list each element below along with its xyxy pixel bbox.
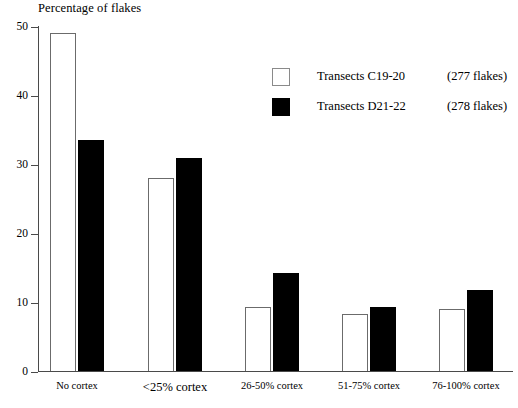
y-axis-tick [31,96,38,97]
x-axis-label-1: <25% cortex [143,380,207,395]
y-axis-tick-label: 40 [0,90,28,102]
y-axis-line [38,26,39,372]
y-axis-tick [31,372,38,373]
y-axis-tick-label: 50 [0,21,28,33]
y-axis-tick-label: 20 [0,228,28,240]
bar-filled-1 [176,158,202,372]
bar-open-2 [245,307,271,372]
legend-label: Transects C19-20 [317,69,405,84]
plot-area: 50403020100 No cortex<25% cortex26-50% c… [0,0,518,408]
y-axis-tick [31,165,38,166]
y-axis-tick-label: 30 [0,159,28,171]
bar-filled-0 [78,140,104,371]
bar-filled-3 [370,307,396,371]
legend-count: (277 flakes) [447,69,507,84]
bar-filled-4 [467,290,493,371]
y-axis-tick-label: 0 [0,366,28,378]
legend-label: Transects D21-22 [317,99,406,114]
y-axis-tick [31,234,38,235]
bar-open-4 [439,309,465,371]
bar-chart-figure: Percentage of flakes 50403020100 No cort… [0,0,518,408]
bar-open-0 [50,33,76,371]
bar-open-3 [342,314,368,372]
legend-count: (278 flakes) [447,99,507,114]
y-axis-tick-label: 10 [0,297,28,309]
x-axis-label-4: 76-100% cortex [432,380,499,391]
x-axis-label-3: 51-75% cortex [338,380,400,391]
legend-swatch-filled [272,98,290,116]
x-axis-label-2: 26-50% cortex [241,380,303,391]
y-axis-tick [31,27,38,28]
bar-open-1 [148,178,174,371]
y-axis-tick [31,303,38,304]
bar-filled-2 [273,273,299,372]
x-axis-label-0: No cortex [56,380,98,391]
legend-swatch-open [272,68,290,86]
